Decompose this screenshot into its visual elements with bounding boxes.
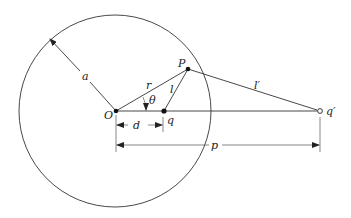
label-P: P bbox=[177, 57, 186, 70]
label-l-prime: l′ bbox=[254, 79, 261, 92]
theta-arc bbox=[143, 97, 146, 110]
segment-l-prime bbox=[188, 69, 317, 110]
label-theta: θ bbox=[149, 94, 156, 107]
radius-a-line-lower bbox=[90, 82, 116, 111]
label-l: l bbox=[170, 83, 174, 96]
point-q bbox=[161, 108, 166, 113]
label-d: d bbox=[133, 119, 140, 132]
label-a: a bbox=[82, 70, 89, 83]
label-q: q bbox=[167, 114, 174, 127]
segment-l bbox=[164, 69, 188, 111]
label-q-prime: q′ bbox=[326, 105, 336, 118]
point-P bbox=[186, 67, 191, 72]
label-p: p bbox=[211, 139, 218, 152]
label-r: r bbox=[146, 79, 152, 92]
point-q-prime bbox=[318, 109, 323, 114]
point-O bbox=[114, 109, 119, 114]
label-O: O bbox=[104, 109, 113, 122]
diagram-canvas: a r l l′ θ O P q q′ d p bbox=[0, 0, 351, 218]
radius-a-line-upper bbox=[50, 39, 80, 71]
diagram-svg: a r l l′ θ O P q q′ d p bbox=[0, 0, 351, 218]
